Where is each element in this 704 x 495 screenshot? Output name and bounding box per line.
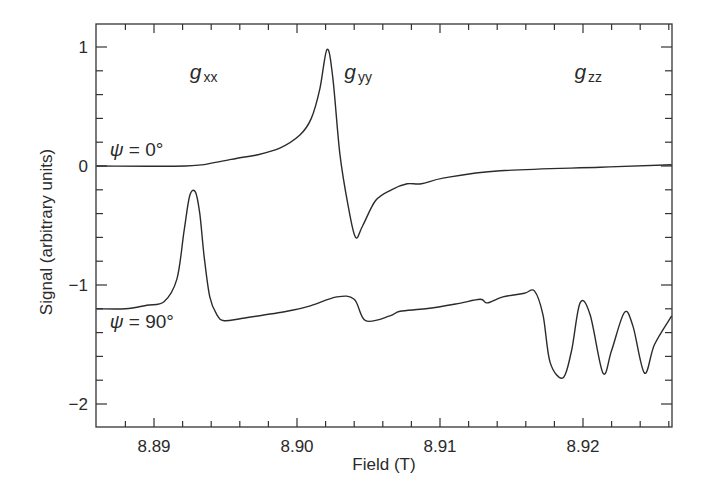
y-tick-label: −2 — [69, 395, 88, 414]
annotation-gyy: gyy — [344, 60, 372, 85]
x-axis-ticks: 8.898.908.918.92 — [125, 24, 668, 456]
series-group — [97, 49, 672, 378]
annotation-gzz: gzz — [574, 60, 602, 85]
y-tick-label: 1 — [79, 38, 88, 57]
plot-border — [96, 24, 672, 427]
x-tick-label: 8.91 — [423, 437, 456, 456]
epr-spectrum-chart: 8.898.908.918.92 10−1−2 gxxgyygzz ψ = 0°… — [0, 0, 704, 495]
plot-frame — [96, 24, 672, 427]
series-line-1 — [97, 190, 672, 378]
y-tick-label: −1 — [69, 276, 88, 295]
annotation-gxx: gxx — [190, 60, 218, 85]
x-axis-label: Field (T) — [352, 455, 415, 474]
y-axis-label: Signal (arbitrary units) — [37, 149, 56, 315]
series-labels: ψ = 0°ψ = 90° — [110, 139, 174, 331]
y-axis-ticks: 10−1−2 — [69, 38, 672, 414]
series-label-1: ψ = 90° — [110, 311, 174, 332]
x-tick-label: 8.90 — [280, 437, 313, 456]
g-tensor-annotations: gxxgyygzz — [190, 60, 602, 85]
y-tick-label: 0 — [79, 157, 88, 176]
series-label-0: ψ = 0° — [110, 139, 164, 160]
x-tick-label: 8.89 — [137, 437, 170, 456]
x-tick-label: 8.92 — [566, 437, 599, 456]
